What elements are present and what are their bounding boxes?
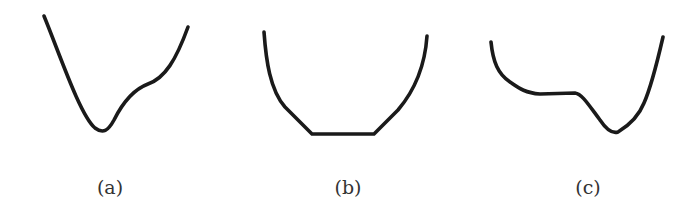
panel-b <box>264 32 427 134</box>
curve-a-asymmetric-well <box>44 16 188 131</box>
curve-c-plateau-well <box>491 37 663 132</box>
panel-c <box>491 37 663 132</box>
panel-label-a: (a) <box>97 176 123 198</box>
panel-label-c: (c) <box>575 176 600 198</box>
panel-label-b: (b) <box>335 176 362 198</box>
panel-a <box>44 16 188 131</box>
curve-b-flat-bottom-bowl <box>264 32 427 134</box>
